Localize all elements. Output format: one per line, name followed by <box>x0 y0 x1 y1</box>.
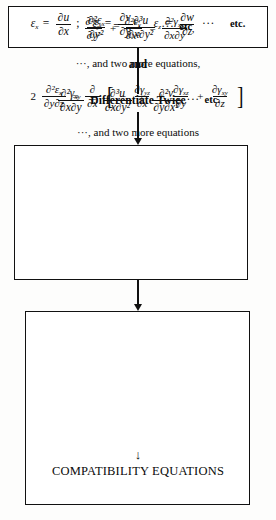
denominator: ∂x <box>135 96 149 109</box>
arrow-down-icon <box>134 304 142 311</box>
equation-compatibility-second: 2 ∂²εx ∂y∂z = ∂ ∂x [ − ∂γyz ∂x + ∂γxz ∂y… <box>0 84 276 109</box>
note-two-more-equations-first: ···, and two more equations, <box>0 57 276 69</box>
numerator: ∂γyz <box>133 84 152 96</box>
denominator: ∂x² <box>124 28 142 41</box>
bracket-close: ] <box>236 89 244 103</box>
term3-fraction: ∂γxy ∂z <box>210 84 230 109</box>
note-two-more-equations-second: ···, and two more equations <box>0 126 276 138</box>
denominator: ∂x∂y <box>162 28 187 41</box>
term2-fraction: ∂²εy ∂x² <box>123 16 143 41</box>
compatibility-content: ∂²εx ∂y² + ∂²εy ∂x² = ∂²γxy ∂x∂y , ···, … <box>0 14 276 138</box>
denominator: ∂z <box>213 96 227 109</box>
equals-sign: = <box>148 23 157 34</box>
lhs-fraction: ∂²εx ∂y∂z <box>42 84 66 109</box>
operator-fraction: ∂ ∂x <box>85 84 99 109</box>
comma: , <box>192 23 195 34</box>
numerator: ∂²εy <box>123 16 143 28</box>
denominator: ∂y² <box>85 28 103 41</box>
denominator: ∂y∂z <box>42 96 66 109</box>
term2-fraction: ∂γxz ∂y <box>171 84 190 109</box>
bracket-open: [ <box>106 89 114 103</box>
equals-sign: = <box>71 91 80 102</box>
numerator: ∂²γxy <box>163 16 186 28</box>
term1-fraction: ∂γyz ∂x <box>133 84 152 109</box>
plus-sign: + <box>109 23 118 34</box>
rhs-fraction: ∂²γxy ∂x∂y <box>162 16 187 41</box>
plus-sign: + <box>196 91 205 102</box>
denominator: ∂y <box>174 96 188 109</box>
term1-fraction: ∂²εx ∂y² <box>83 16 103 41</box>
numerator: ∂γxy <box>210 84 230 96</box>
coefficient-two: 2 <box>31 91 38 102</box>
arrow-down-icon <box>134 138 142 145</box>
diagram-page: εx = ∂u ∂x ; εy = ∂v ∂y ; εz = ∂w ∂z ··· <box>0 0 276 520</box>
compatibility-equations-title: COMPATIBILITY EQUATIONS <box>0 464 276 479</box>
second-derivative-box <box>14 145 248 280</box>
connector-line-middle <box>137 280 139 304</box>
arrow-down-icon: ↓ <box>0 448 276 461</box>
denominator: ∂x <box>85 96 99 109</box>
equation-compatibility-first: ∂²εx ∂y² + ∂²εy ∂x² = ∂²γxy ∂x∂y , <box>0 16 276 41</box>
numerator: ∂²εx <box>83 16 103 28</box>
numerator: ∂ <box>88 84 97 96</box>
minus-sign: − <box>118 91 127 102</box>
plus-sign: + <box>157 91 166 102</box>
numerator: ∂γxz <box>171 84 190 96</box>
numerator: ∂²εx <box>44 84 64 96</box>
